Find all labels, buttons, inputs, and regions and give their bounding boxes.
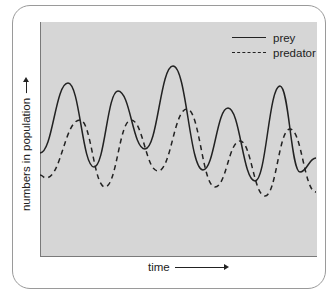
legend: prey predator	[232, 30, 316, 60]
x-axis-label-text: time	[148, 261, 170, 273]
y-axis-label: numbers in population	[20, 79, 32, 211]
legend-label-prey: prey	[273, 32, 295, 44]
y-axis-label-text: numbers in population	[20, 98, 32, 211]
x-axis-label: time	[148, 261, 227, 273]
legend-item-prey: prey	[232, 30, 316, 45]
predator-curve	[40, 109, 316, 196]
solid-line-icon	[232, 37, 266, 38]
arrow-up-icon	[26, 79, 27, 93]
arrow-right-icon	[175, 267, 227, 268]
dashed-line-icon	[232, 52, 266, 53]
legend-label-predator: predator	[273, 47, 316, 59]
legend-item-predator: predator	[232, 45, 316, 60]
prey-curve	[40, 66, 316, 181]
